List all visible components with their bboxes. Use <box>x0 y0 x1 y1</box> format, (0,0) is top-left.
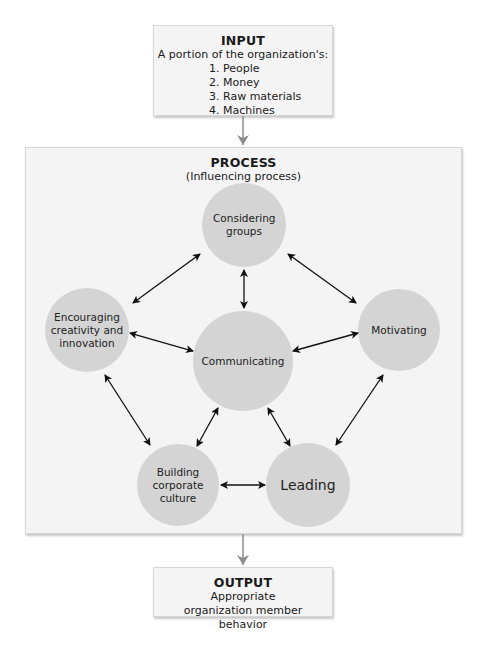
process-header: PROCESS (Influencing process) <box>26 155 461 184</box>
output-description: Appropriate organization member behavior <box>154 590 332 632</box>
node-communicating-label: Communicating <box>201 355 284 368</box>
node-encouraging-creativity: Encouraging creativity and innovation <box>45 288 129 372</box>
node-building-corporate-culture-label: Building corporate culture <box>148 466 208 505</box>
input-item-machines: 4. Machines <box>209 104 332 118</box>
node-considering-groups: Considering groups <box>202 183 286 267</box>
node-building-corporate-culture: Building corporate culture <box>137 444 219 526</box>
output-box: OUTPUT Appropriate organization member b… <box>153 567 333 617</box>
input-item-people: 1. People <box>209 62 332 76</box>
input-box: INPUT A portion of the organization's: 1… <box>153 25 333 116</box>
node-encouraging-creativity-label: Encouraging creativity and innovation <box>49 311 125 350</box>
node-leading-label: Leading <box>280 479 335 492</box>
process-subtitle: (Influencing process) <box>26 170 461 184</box>
input-item-money: 2. Money <box>209 76 332 90</box>
output-title: OUTPUT <box>154 575 332 590</box>
input-subtitle: A portion of the organization's: <box>154 48 332 62</box>
node-leading: Leading <box>266 443 350 527</box>
node-communicating: Communicating <box>193 311 293 411</box>
input-list: 1. People 2. Money 3. Raw materials 4. M… <box>154 62 332 118</box>
input-title: INPUT <box>154 33 332 48</box>
node-motivating: Motivating <box>358 289 440 371</box>
process-title: PROCESS <box>26 155 461 170</box>
node-motivating-label: Motivating <box>371 324 427 337</box>
node-considering-groups-label: Considering groups <box>213 212 275 238</box>
input-item-raw-materials: 3. Raw materials <box>209 90 332 104</box>
